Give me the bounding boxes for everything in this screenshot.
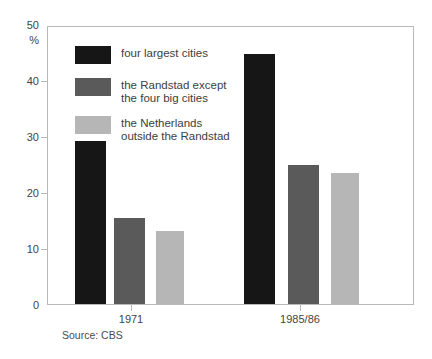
legend-swatch-icon-netherlands-outside-randstad xyxy=(75,116,111,134)
x-tick-mark-1971 xyxy=(131,305,132,311)
legend-label-four-largest-cities: four largest cities xyxy=(121,46,208,60)
y-tick-label-30: 30 xyxy=(27,132,39,143)
bar-1971-netherlands-outside-randstad xyxy=(156,231,184,304)
bar-1985-86-randstad-except-big-cities xyxy=(288,165,319,304)
bar-1985-86-four-largest-cities xyxy=(244,54,275,304)
x-axis-label-1971: 1971 xyxy=(119,313,143,326)
legend-label-netherlands-outside-randstad: the Netherlands outside the Randstad xyxy=(121,116,230,143)
y-tick-label-40: 40 xyxy=(27,76,39,87)
legend-swatch-icon-randstad-except-big-cities xyxy=(75,78,111,96)
x-tick-mark-1985-86 xyxy=(300,305,301,311)
y-axis-unit-label: % xyxy=(29,35,39,46)
bar-1971-four-largest-cities xyxy=(75,141,106,304)
legend-label-randstad-except-big-cities: the Randstad except the four big cities xyxy=(121,78,227,105)
y-axis: 50 % 40 30 20 10 0 xyxy=(0,0,47,359)
y-tick-label-10: 10 xyxy=(27,244,39,255)
y-tick-label-50: 50 xyxy=(27,20,39,31)
bar-chart: 50 % 40 30 20 10 0 1971 1985/86 four lar… xyxy=(0,0,432,359)
legend-entry-four-largest-cities: four largest cities xyxy=(75,46,208,64)
plot-area xyxy=(47,26,414,305)
y-tick-label-20: 20 xyxy=(27,188,39,199)
legend-swatch-icon-four-largest-cities xyxy=(75,46,111,64)
x-axis-label-1985-86: 1985/86 xyxy=(280,313,320,326)
legend-entry-randstad-except-big-cities: the Randstad except the four big cities xyxy=(75,78,227,105)
legend-entry-netherlands-outside-randstad: the Netherlands outside the Randstad xyxy=(75,116,230,143)
y-tick-label-0: 0 xyxy=(33,300,39,311)
bar-1985-86-netherlands-outside-randstad xyxy=(331,173,359,304)
source-note: Source: CBS xyxy=(62,329,123,341)
bar-1971-randstad-except-big-cities xyxy=(114,218,145,304)
